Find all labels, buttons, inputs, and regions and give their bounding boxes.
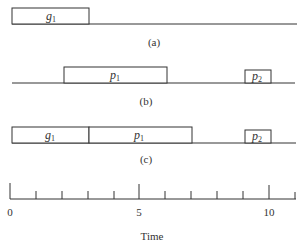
panel-b: p1 p2 (b) [12,67,295,108]
time-axis: 0 5 10 Time [7,183,296,242]
tick-label-0: 0 [7,206,13,218]
panel-a-caption: (a) [148,36,161,49]
panel-b-caption: (b) [140,95,153,108]
panel-c: g1 p1 p2 (c) [12,127,296,166]
panel-a: g1 (a) [12,8,297,49]
tick-label-10: 10 [264,206,276,218]
panel-c-caption: (c) [140,153,153,166]
tick-label-5: 5 [136,206,142,218]
timeline-diagram: g1 (a) p1 p2 (b) g1 p1 p2 (c) 0 [0,0,308,251]
axis-title: Time [141,230,164,242]
